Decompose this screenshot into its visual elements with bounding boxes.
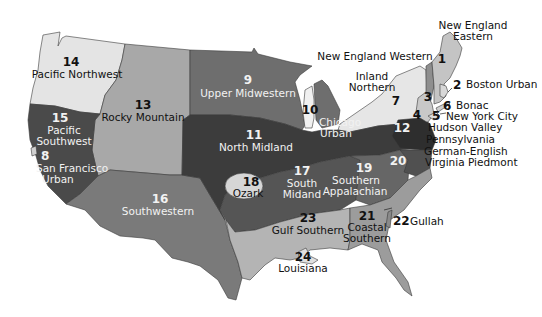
label-number-7: 7 bbox=[392, 94, 400, 108]
label-number-20: 20 bbox=[390, 154, 407, 168]
label-name-23: Gulf Southern bbox=[272, 224, 345, 236]
label-number-10: 10 bbox=[302, 103, 319, 117]
label-number-15: 15 bbox=[52, 111, 69, 125]
label-number-13: 13 bbox=[135, 98, 152, 112]
label-name-19-line2: Appalachian bbox=[323, 185, 388, 197]
label-name-12-line1: Pennsylvania bbox=[426, 133, 495, 145]
label-number-14: 14 bbox=[63, 55, 80, 69]
label-number-9: 9 bbox=[244, 73, 252, 87]
label-number-12: 12 bbox=[394, 121, 411, 135]
dialect-map: 14 Pacific Northwest 13 Rocky Mountain 9… bbox=[0, 0, 542, 317]
label-name-14: Pacific Northwest bbox=[32, 68, 123, 80]
label-name-16: Southwestern bbox=[122, 205, 194, 217]
label-name-4: Hudson Valley bbox=[428, 121, 502, 133]
label-number-19: 19 bbox=[356, 161, 373, 175]
label-name-15-line2: Southwest bbox=[36, 135, 91, 147]
label-name-13: Rocky Mountain bbox=[101, 111, 184, 123]
label-number-2: 2 bbox=[453, 78, 461, 92]
label-name-7-line2: Northern bbox=[349, 81, 396, 93]
region-2-boston-urban[interactable] bbox=[440, 84, 448, 98]
label-name-18: Ozark bbox=[233, 187, 265, 199]
label-name-8-line2: Urban bbox=[42, 173, 74, 185]
label-number-1: 1 bbox=[438, 52, 446, 66]
label-name-10-line2: Urban bbox=[320, 127, 352, 139]
label-name-3: New England Western bbox=[317, 50, 432, 62]
label-number-16: 16 bbox=[152, 192, 169, 206]
label-number-22: 22 bbox=[393, 214, 410, 228]
label-name-21-line2: Southern bbox=[343, 232, 391, 244]
label-number-8: 8 bbox=[41, 149, 49, 163]
label-name-2: Boston Urban bbox=[466, 78, 537, 90]
label-name-11: North Midland bbox=[219, 141, 293, 153]
label-name-20: Virginia Piedmont bbox=[425, 156, 518, 168]
label-number-17: 17 bbox=[294, 164, 311, 178]
region-8-san-francisco-urban[interactable] bbox=[31, 146, 37, 156]
label-name-24: Louisiana bbox=[278, 262, 328, 274]
label-name-22: Gullah bbox=[410, 215, 444, 227]
label-name-1-line2: Eastern bbox=[453, 30, 493, 42]
label-name-9: Upper Midwestern bbox=[200, 87, 296, 99]
label-name-17-line2: Midand bbox=[283, 188, 321, 200]
label-number-4: 4 bbox=[413, 108, 421, 122]
label-number-11: 11 bbox=[246, 128, 263, 142]
label-number-3: 3 bbox=[424, 90, 432, 104]
label-number-23: 23 bbox=[300, 211, 317, 225]
